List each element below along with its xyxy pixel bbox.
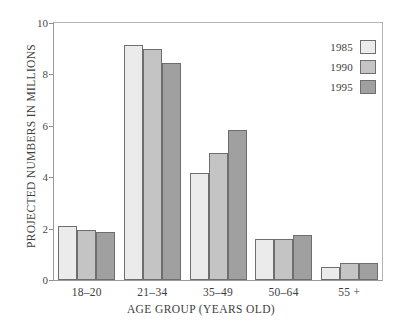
legend-swatch: [360, 60, 376, 74]
legend-item: 1985: [300, 38, 376, 56]
legend-swatch: [360, 80, 376, 94]
bar-group: [190, 23, 247, 280]
legend-label: 1995: [330, 81, 353, 93]
bar: [359, 263, 378, 280]
legend-item: 1990: [300, 58, 376, 76]
x-axis-title: AGE GROUP (YEARS OLD): [0, 303, 402, 315]
bar: [124, 45, 143, 280]
legend-item: 1995: [300, 78, 376, 96]
legend-label: 1985: [330, 41, 353, 53]
bar: [96, 232, 115, 280]
legend-swatch: [360, 40, 376, 54]
bar: [293, 235, 312, 280]
bar: [77, 230, 96, 280]
bar: [143, 49, 162, 280]
bar: [340, 263, 359, 280]
y-tick-label: 2: [0, 223, 48, 235]
bar: [162, 63, 181, 280]
y-tick-label: 0: [0, 274, 48, 286]
y-tick-label: 6: [0, 120, 48, 132]
x-tick-label: 55 +: [309, 286, 389, 298]
bar: [209, 153, 228, 280]
bar-group: [58, 23, 115, 280]
bar: [190, 173, 209, 280]
y-tick-label: 8: [0, 68, 48, 80]
bar-group: [124, 23, 181, 280]
legend: 198519901995: [300, 38, 376, 98]
bar: [58, 226, 77, 280]
bar-chart: PROJECTED NUMBERS IN MILLIONS 0246810 18…: [0, 0, 402, 329]
y-tick-label: 4: [0, 171, 48, 183]
legend-label: 1990: [330, 61, 353, 73]
bar: [321, 267, 340, 280]
y-tick-label: 10: [0, 17, 48, 29]
bar: [255, 239, 274, 280]
bar: [228, 130, 247, 280]
bar: [274, 239, 293, 280]
